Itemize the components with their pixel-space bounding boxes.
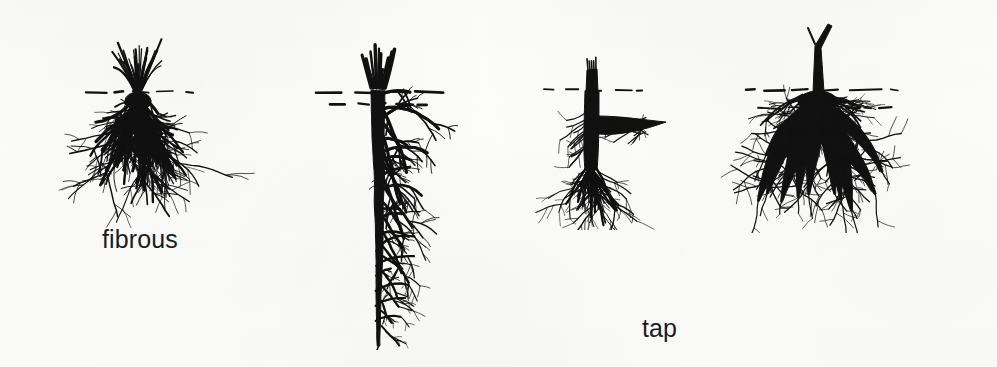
specimen-tap: tap — [280, 30, 510, 350]
fibrous-root-drawing — [40, 28, 260, 228]
woody-root-drawing — [520, 40, 700, 230]
specimen-fibrous: fibrous — [40, 28, 260, 228]
specimen-tuberous: tuberous — [700, 18, 970, 233]
tuberous-root-drawing — [700, 18, 970, 233]
root-types-figure: fibrous tap woody tuberous — [0, 0, 997, 367]
specimen-label-fibrous: fibrous — [102, 227, 178, 252]
specimen-woody: woody — [520, 40, 700, 230]
specimen-label-tap: tap — [642, 316, 677, 341]
tap-root-drawing — [280, 30, 510, 350]
